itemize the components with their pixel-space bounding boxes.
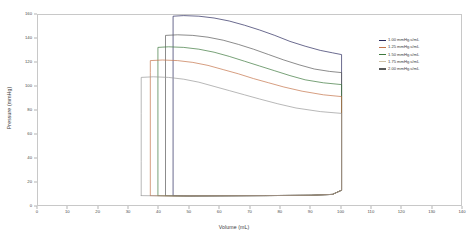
x-tick-mark (279, 206, 280, 209)
x-tick-mark (401, 206, 402, 209)
x-tick-mark (310, 206, 311, 209)
x-tick-mark (67, 206, 68, 209)
x-tick-label: 20 (95, 210, 100, 214)
y-tick-label: 80 (27, 108, 32, 112)
legend-label: 1.25 mmHg.s/mL (388, 45, 419, 49)
x-tick-mark (249, 206, 250, 209)
y-tick-label: 0 (30, 204, 32, 208)
x-tick-label: 10 (65, 210, 70, 214)
y-tick-label: 100 (25, 84, 32, 88)
legend-color-swatch (379, 40, 386, 41)
pv-loop-series (150, 60, 341, 196)
x-axis: 0102030405060708090100110120130140 (37, 206, 462, 222)
legend-item[interactable]: 1.00 mmHg.s/mL (379, 37, 465, 44)
x-tick-label: 90 (308, 210, 313, 214)
x-tick-mark (128, 206, 129, 209)
x-tick-mark (97, 206, 98, 209)
legend-item[interactable]: 1.25 mmHg.s/mL (379, 44, 465, 51)
legend-color-swatch (379, 47, 386, 48)
x-axis-title: Volume (mL) (0, 224, 468, 230)
x-tick-label: 130 (428, 210, 435, 214)
legend-item[interactable]: 1.75 mmHg.s/mL (379, 59, 465, 66)
x-tick-mark (370, 206, 371, 209)
x-tick-label: 70 (247, 210, 252, 214)
legend-label: 1.00 mmHg.s/mL (388, 38, 419, 42)
legend-label: 2.00 mmHg.s/mL (388, 67, 419, 71)
legend-label: 1.50 mmHg.s/mL (388, 53, 419, 57)
x-tick-label: 40 (156, 210, 161, 214)
x-tick-mark (431, 206, 432, 209)
legend-item[interactable]: 2.00 mmHg.s/mL (379, 66, 465, 73)
y-tick-label: 140 (25, 36, 32, 40)
x-tick-mark (37, 206, 38, 209)
y-axis-title: Pressure (mmHg) (6, 87, 12, 129)
legend-color-swatch (379, 68, 386, 69)
y-tick-label: 60 (27, 132, 32, 136)
x-tick-mark (340, 206, 341, 209)
pv-loop-series (173, 16, 341, 196)
x-tick-label: 100 (337, 210, 344, 214)
y-tick-label: 20 (27, 180, 32, 184)
x-tick-label: 50 (186, 210, 191, 214)
x-tick-mark (158, 206, 159, 209)
y-tick-label: 160 (25, 12, 32, 16)
x-tick-label: 60 (217, 210, 222, 214)
x-tick-mark (462, 206, 463, 209)
chart-legend: 1.00 mmHg.s/mL1.25 mmHg.s/mL1.50 mmHg.s/… (379, 37, 465, 73)
x-tick-label: 110 (368, 210, 375, 214)
legend-item[interactable]: 1.50 mmHg.s/mL (379, 51, 465, 58)
x-tick-label: 80 (278, 210, 283, 214)
x-tick-label: 30 (126, 210, 131, 214)
legend-color-swatch (379, 61, 386, 62)
legend-color-swatch (379, 54, 386, 55)
x-tick-label: 0 (36, 210, 38, 214)
legend-label: 1.75 mmHg.s/mL (388, 60, 419, 64)
pv-loop-series (141, 77, 341, 196)
x-tick-mark (219, 206, 220, 209)
chart-root: 020406080100120140160 Pressure (mmHg) 01… (0, 0, 468, 244)
x-tick-mark (188, 206, 189, 209)
pv-loop-series (166, 35, 342, 196)
y-tick-label: 120 (25, 60, 32, 64)
x-tick-label: 140 (459, 210, 466, 214)
x-tick-label: 120 (398, 210, 405, 214)
y-tick-label: 40 (27, 156, 32, 160)
